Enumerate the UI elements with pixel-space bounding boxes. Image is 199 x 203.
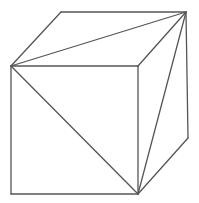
back-right-edge — [186, 12, 188, 138]
face-diagonals — [11, 12, 186, 194]
cube-diagram — [0, 0, 199, 203]
top-face-diagonal — [11, 12, 186, 66]
front-face-diagonal — [11, 66, 138, 194]
